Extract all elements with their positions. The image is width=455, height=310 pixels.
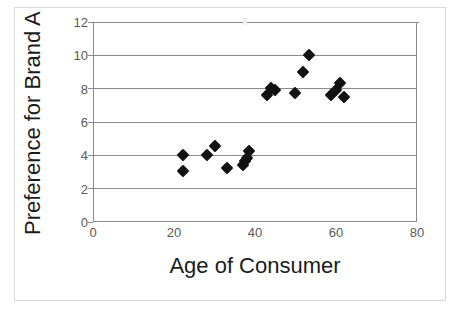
gridline-4 bbox=[94, 155, 416, 156]
y-tick-label: 8 bbox=[58, 82, 88, 95]
y-tick-label: 10 bbox=[58, 49, 88, 62]
x-tick-label: 60 bbox=[316, 226, 356, 239]
gridline-6 bbox=[94, 122, 416, 123]
gridline-2 bbox=[94, 188, 416, 189]
scan-artifact bbox=[243, 18, 247, 25]
x-tick-label: 0 bbox=[73, 226, 113, 239]
y-tick-label: 2 bbox=[58, 182, 88, 195]
gridline-10 bbox=[94, 55, 416, 56]
x-tick-label: 20 bbox=[154, 226, 194, 239]
data-point bbox=[297, 65, 310, 78]
data-point bbox=[200, 148, 213, 161]
gridline-8 bbox=[94, 88, 416, 89]
x-tick-label: 40 bbox=[235, 226, 275, 239]
gridline-12 bbox=[93, 22, 419, 23]
x-axis-tick-labels: 0 20 40 60 80 bbox=[93, 226, 417, 246]
y-tick-mark bbox=[88, 222, 93, 223]
scatter-chart: Preference for Brand A 12 10 8 6 4 2 0 bbox=[0, 0, 455, 310]
y-tick-label: 4 bbox=[58, 149, 88, 162]
data-point bbox=[176, 148, 189, 161]
y-axis-title: Preference for Brand A bbox=[20, 15, 46, 235]
y-tick-label: 12 bbox=[58, 16, 88, 29]
data-point bbox=[303, 49, 316, 62]
y-axis-tick-labels: 12 10 8 6 4 2 0 bbox=[55, 22, 88, 222]
x-tick-label: 80 bbox=[397, 226, 437, 239]
plot-area bbox=[93, 22, 417, 222]
x-axis-title: Age of Consumer bbox=[93, 253, 417, 279]
data-point bbox=[208, 140, 221, 153]
y-tick-label: 6 bbox=[58, 116, 88, 129]
screenshot-root: Preference for Brand A 12 10 8 6 4 2 0 bbox=[0, 0, 455, 310]
data-point bbox=[176, 165, 189, 178]
data-point bbox=[220, 162, 233, 175]
